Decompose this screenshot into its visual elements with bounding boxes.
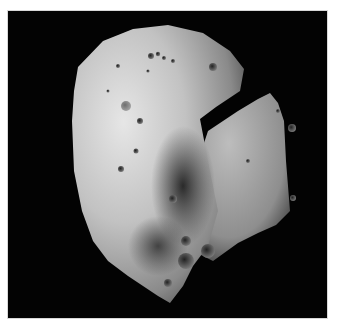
asteroid-illustration bbox=[8, 11, 327, 318]
asteroid-photo: Grayscale photograph of a cratered, irre… bbox=[8, 11, 327, 318]
